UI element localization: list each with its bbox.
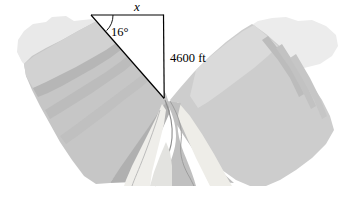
triangle-side-height [164, 14, 165, 98]
label-depth: 4600 ft [170, 51, 206, 65]
diagram-canvas: x 16° 4600 ft [0, 0, 356, 204]
label-x: x [133, 0, 140, 14]
canyon-diagram-figure: x 16° 4600 ft [0, 0, 356, 204]
label-angle: 16° [111, 25, 129, 39]
terrain-group [17, 16, 338, 186]
